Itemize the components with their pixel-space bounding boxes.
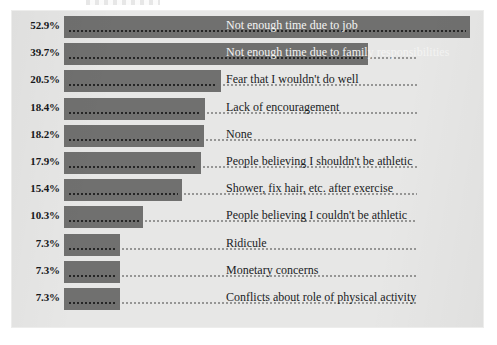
bar-track bbox=[64, 234, 483, 256]
bar-fill bbox=[64, 288, 120, 310]
leader-dots-over-bar bbox=[68, 302, 116, 304]
leader-dots-over-bar bbox=[68, 275, 116, 277]
bar-category-label: Not enough time due to job bbox=[226, 18, 358, 33]
bar-row: 15.4%Shower, fix hair, etc. after exerci… bbox=[12, 179, 483, 201]
bar-category-label: People believing I shouldn't be athletic bbox=[226, 154, 412, 169]
bar-value-label: 39.7% bbox=[12, 46, 60, 58]
bar-row: 10.3%People believing I couldn't be athl… bbox=[12, 206, 483, 228]
bar-value-label: 15.4% bbox=[12, 182, 60, 194]
bar-row: 20.5%Fear that I wouldn't do well bbox=[12, 70, 483, 92]
bar-row: 7.3%Monetary concerns bbox=[12, 261, 483, 283]
leader-dots-over-bar bbox=[68, 248, 116, 250]
bar-category-label: Shower, fix hair, etc. after exercise bbox=[226, 181, 393, 196]
bar-fill bbox=[64, 206, 143, 228]
bar-track bbox=[64, 125, 483, 147]
bar-category-label: Not enough time due to family responsibi… bbox=[226, 45, 449, 60]
bar-value-label: 52.9% bbox=[12, 19, 60, 31]
bar-row: 7.3%Conflicts about role of physical act… bbox=[12, 288, 483, 310]
bar-fill bbox=[64, 125, 204, 147]
leader-dots-over-bar bbox=[68, 166, 197, 168]
bar-value-label: 7.3% bbox=[12, 291, 60, 303]
leader-dots-over-bar bbox=[68, 220, 139, 222]
bar-category-label: None bbox=[226, 127, 252, 142]
chart-panel: 52.9%Not enough time due to job39.7%Not … bbox=[12, 11, 483, 327]
leader-dots-over-bar bbox=[68, 84, 217, 86]
bar-value-label: 10.3% bbox=[12, 209, 60, 221]
bar-fill bbox=[64, 152, 201, 174]
bar-row: 18.4%Lack of encouragement bbox=[12, 98, 483, 120]
bar-row: 18.2%None bbox=[12, 125, 483, 147]
bar-category-label: Monetary concerns bbox=[226, 263, 318, 278]
bar-fill bbox=[64, 261, 120, 283]
bar-fill bbox=[64, 98, 205, 120]
bar-fill bbox=[64, 234, 120, 256]
bar-row: 7.3%Ridicule bbox=[12, 234, 483, 256]
bar-value-label: 20.5% bbox=[12, 73, 60, 85]
leader-dots-over-bar bbox=[68, 112, 201, 114]
scan-artifact-top bbox=[86, 0, 160, 5]
bar-row: 17.9%People believing I shouldn't be ath… bbox=[12, 152, 483, 174]
bar-category-label: Fear that I wouldn't do well bbox=[226, 72, 358, 87]
bar-row: 52.9%Not enough time due to job bbox=[12, 16, 483, 38]
bar-category-label: People believing I couldn't be athletic bbox=[226, 208, 407, 223]
leader-dots-past-bar bbox=[121, 248, 417, 250]
bar-fill bbox=[64, 70, 221, 92]
bar-fill bbox=[64, 179, 182, 201]
bar-value-label: 7.3% bbox=[12, 264, 60, 276]
bar-value-label: 18.4% bbox=[12, 101, 60, 113]
bar-category-label: Ridicule bbox=[226, 236, 267, 251]
leader-dots-over-bar bbox=[68, 193, 178, 195]
leader-dots-over-bar bbox=[68, 139, 200, 141]
bar-value-label: 18.2% bbox=[12, 128, 60, 140]
bar-chart-rows: 52.9%Not enough time due to job39.7%Not … bbox=[12, 11, 483, 327]
bar-value-label: 7.3% bbox=[12, 237, 60, 249]
bar-category-label: Conflicts about role of physical activit… bbox=[226, 290, 416, 305]
bar-value-label: 17.9% bbox=[12, 155, 60, 167]
bar-row: 39.7%Not enough time due to family respo… bbox=[12, 43, 483, 65]
bar-category-label: Lack of encouragement bbox=[226, 100, 339, 115]
